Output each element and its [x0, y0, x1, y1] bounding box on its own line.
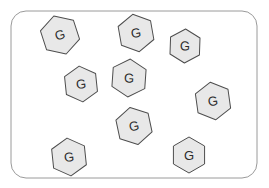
hexagon-label: G [180, 38, 191, 53]
hexagon-label: G [123, 70, 134, 86]
particle-diagram: GGGGGGGGG [0, 0, 269, 188]
diagram-canvas: GGGGGGGGG [0, 0, 269, 188]
hexagon-label: G [184, 148, 194, 163]
hexagon-label: G [75, 76, 87, 92]
hexagon-label: G [63, 149, 75, 165]
hexagon-label: G [207, 93, 219, 109]
